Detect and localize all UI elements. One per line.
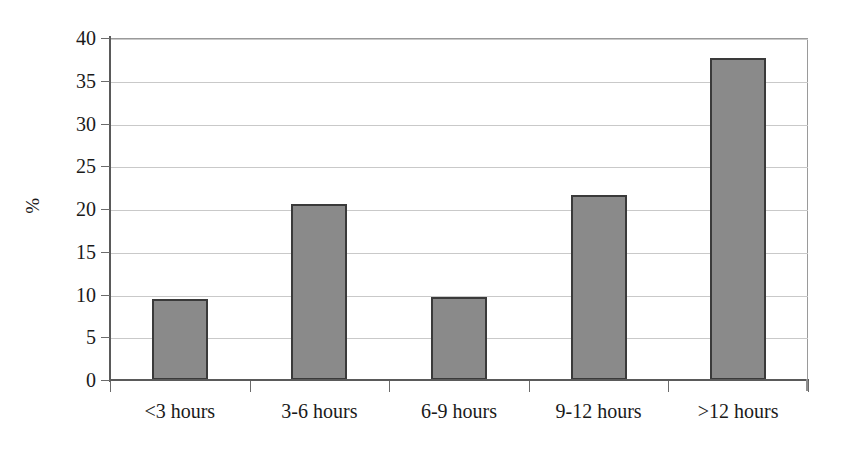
y-tick-labels-group: 0510152025303540 — [30, 0, 96, 452]
y-tick-label: 30 — [36, 114, 96, 134]
y-tick-label: 10 — [36, 285, 96, 305]
y-tick-mark — [101, 295, 110, 296]
y-tick-label: 20 — [36, 199, 96, 219]
y-tick-label: 0 — [36, 370, 96, 390]
x-tick-mark — [808, 381, 809, 392]
y-axis-title: % — [23, 197, 42, 213]
x-axis-label: >12 hours — [668, 399, 808, 423]
x-axis-label: 3-6 hours — [249, 399, 389, 423]
y-tick-mark — [101, 38, 110, 39]
y-tick-mark — [101, 81, 110, 82]
gridline — [110, 39, 808, 40]
y-tick-mark — [101, 337, 110, 338]
x-tick-mark — [529, 381, 530, 392]
gridline — [110, 210, 808, 211]
bar-chart-figure: 0510152025303540 % <3 hours3-6 hours6-9 … — [0, 0, 852, 452]
x-axis-label: 6-9 hours — [389, 399, 529, 423]
x-tick-mark — [668, 381, 669, 392]
x-tick-mark — [110, 381, 111, 392]
y-tick-label: 5 — [36, 327, 96, 347]
x-axis-label: 9-12 hours — [529, 399, 669, 423]
plot-area — [110, 38, 808, 380]
x-axis-line — [109, 379, 809, 381]
gridline — [110, 381, 808, 382]
x-tick-mark — [389, 381, 390, 392]
y-tick-mark — [101, 166, 110, 167]
bar — [431, 297, 487, 380]
bar — [710, 58, 766, 380]
y-tick-mark — [101, 209, 110, 210]
y-tick-mark — [101, 380, 110, 381]
y-tick-mark — [101, 252, 110, 253]
x-tick-mark — [250, 381, 251, 392]
bar — [571, 195, 627, 380]
gridline — [110, 253, 808, 254]
y-tick-label: 25 — [36, 156, 96, 176]
gridline — [110, 82, 808, 83]
gridline — [110, 167, 808, 168]
y-tick-label: 15 — [36, 242, 96, 262]
y-tick-label: 35 — [36, 71, 96, 91]
bar — [152, 299, 208, 380]
y-tick-label: 40 — [36, 28, 96, 48]
bar — [291, 204, 347, 380]
y-tick-mark — [101, 124, 110, 125]
gridline — [110, 125, 808, 126]
x-axis-label: <3 hours — [110, 399, 250, 423]
